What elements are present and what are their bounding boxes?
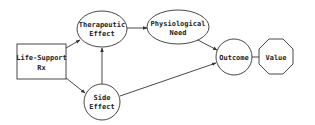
influence-diagram: Life-Support Rx Therapeutic Effect Physi… xyxy=(0,0,315,125)
edge-rx-to-side-effect xyxy=(66,78,85,93)
edge-rx-to-therapeutic xyxy=(66,40,80,48)
node-life-support-rx: Life-Support Rx xyxy=(16,44,67,79)
node-label-2: Effect xyxy=(89,30,114,38)
node-label: Value xyxy=(265,54,286,62)
edge-need-to-outcome xyxy=(196,39,217,50)
node-label-2: Effect xyxy=(89,103,114,111)
node-value: Value xyxy=(259,39,293,74)
node-side-effect: Side Effect xyxy=(84,84,120,120)
node-label: Therapeutic xyxy=(79,21,125,29)
node-label: Side xyxy=(94,94,111,102)
node-therapeutic-effect: Therapeutic Effect xyxy=(77,11,127,47)
node-label-2: Need xyxy=(170,29,187,37)
node-label: Life-Support xyxy=(16,54,67,62)
node-label: Physiological xyxy=(151,20,206,28)
node-outcome: Outcome xyxy=(216,39,252,75)
node-label-2: Rx xyxy=(37,64,46,72)
node-label: Outcome xyxy=(219,54,249,62)
node-physiological-need: Physiological Need xyxy=(147,10,209,44)
edge-side-to-outcome xyxy=(120,63,216,96)
